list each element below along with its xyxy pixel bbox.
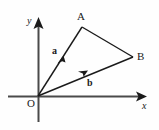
- x-axis-label: x: [142, 101, 146, 111]
- point-label-a: A: [77, 11, 85, 22]
- segment-AB: [82, 27, 133, 57]
- vector-triangle-figure: A B O x y a b: [0, 0, 159, 130]
- origin-label: O: [27, 98, 35, 109]
- point-label-b: B: [137, 51, 144, 62]
- vector-a-label: a: [52, 46, 57, 56]
- vector-a-arrowhead-icon: [58, 56, 66, 64]
- vector-b-label: b: [87, 78, 93, 88]
- y-axis-label: y: [27, 16, 31, 26]
- segment-OB: [38, 57, 133, 96]
